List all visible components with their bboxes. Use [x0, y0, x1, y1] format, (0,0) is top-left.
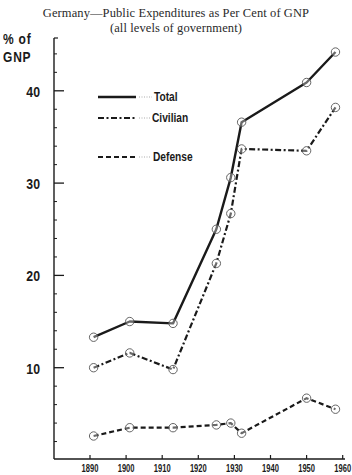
data-point-marker [212, 421, 220, 429]
legend: Total Civilian Defense [98, 90, 193, 163]
series-group [89, 48, 339, 440]
x-tick-label: 1920 [190, 463, 207, 474]
data-point-marker [126, 423, 134, 431]
axes: 1020304018901900191019201930194019501960 [26, 38, 351, 474]
data-point-marker [89, 333, 97, 341]
data-point-marker [126, 317, 134, 325]
data-point-marker [227, 419, 235, 427]
legend-label-civilian: Civilian [152, 111, 188, 124]
y-tick-label: 10 [26, 361, 40, 377]
x-tick-label: 1960 [334, 463, 351, 474]
line-chart: 1020304018901900191019201930194019501960… [0, 0, 352, 475]
data-point-marker [237, 118, 245, 126]
data-point-marker [302, 147, 310, 155]
series-defense [89, 394, 339, 440]
data-point-marker [237, 429, 245, 437]
x-tick-label: 1940 [262, 463, 279, 474]
data-point-marker [227, 173, 235, 181]
series-line [94, 52, 336, 337]
data-point-marker [169, 423, 177, 431]
data-point-marker [227, 209, 235, 217]
data-point-marker [89, 364, 97, 372]
legend-item-total: Total [98, 90, 178, 103]
y-tick-label: 20 [26, 268, 40, 284]
data-point-marker [126, 349, 134, 357]
data-point-marker [331, 103, 339, 111]
x-tick-label: 1930 [226, 463, 243, 474]
y-tick-label: 30 [26, 176, 40, 192]
data-point-marker [302, 78, 310, 86]
legend-item-civilian: Civilian [98, 111, 188, 124]
x-tick-label: 1910 [154, 463, 171, 474]
data-point-marker [331, 48, 339, 56]
data-point-marker [212, 225, 220, 233]
data-point-marker [302, 394, 310, 402]
data-point-marker [237, 145, 245, 153]
data-point-marker [212, 259, 220, 267]
data-point-marker [331, 405, 339, 413]
legend-label-defense: Defense [153, 150, 193, 163]
data-point-marker [169, 319, 177, 327]
x-tick-label: 1950 [298, 463, 315, 474]
series-line [94, 107, 336, 369]
legend-label-total: Total [154, 90, 178, 103]
y-tick-label: 40 [26, 84, 40, 100]
x-tick-label: 1890 [82, 463, 99, 474]
series-civilian [89, 103, 339, 374]
x-tick-label: 1900 [118, 463, 135, 474]
data-point-marker [89, 432, 97, 440]
legend-item-defense: Defense [98, 150, 193, 163]
series-total [89, 48, 339, 342]
data-point-marker [169, 365, 177, 373]
